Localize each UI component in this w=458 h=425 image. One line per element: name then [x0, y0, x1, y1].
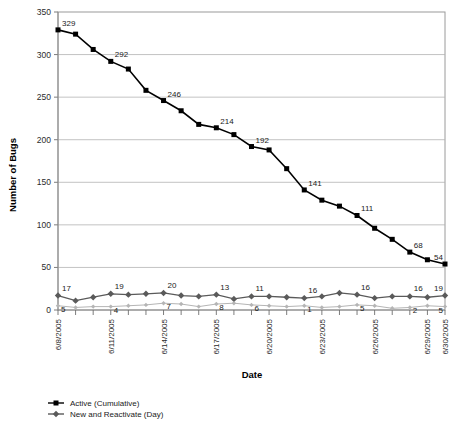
data-point-marker	[372, 226, 377, 231]
data-point-marker	[125, 291, 131, 297]
x-tick-label: 6/8/2005	[54, 318, 63, 350]
data-point-marker	[73, 32, 78, 37]
data-point-marker	[320, 305, 324, 309]
data-point-marker	[408, 305, 412, 309]
data-point-marker	[248, 293, 254, 299]
data-value-label: 11	[256, 284, 265, 293]
data-point-marker	[214, 302, 218, 306]
data-value-label: 5	[439, 306, 444, 315]
data-value-label: 192	[256, 136, 270, 145]
data-point-marker	[442, 292, 448, 298]
legend-marker-1	[54, 401, 59, 406]
data-point-marker	[178, 292, 184, 298]
data-point-marker	[301, 295, 307, 301]
y-tick-label: 0	[46, 305, 51, 315]
data-value-label: 68	[414, 241, 423, 250]
data-point-marker	[161, 301, 165, 305]
data-point-marker	[389, 293, 395, 299]
data-point-marker	[267, 304, 271, 308]
series-layer	[55, 27, 448, 310]
data-value-label: 5	[61, 305, 66, 314]
data-point-marker	[179, 108, 184, 113]
data-value-label: 329	[62, 19, 76, 28]
data-point-marker	[407, 293, 413, 299]
chart-legend: Active (Cumulative)New and Reactivate (D…	[48, 399, 164, 419]
data-point-marker	[371, 295, 377, 301]
data-point-marker	[319, 293, 325, 299]
data-point-marker	[126, 304, 130, 308]
data-point-marker	[143, 88, 148, 93]
x-tick-label: 6/29/2005	[423, 318, 432, 354]
data-point-marker	[108, 59, 113, 64]
data-point-marker	[355, 213, 360, 218]
data-value-label: 214	[220, 117, 234, 126]
x-tick-label: 6/23/2005	[318, 318, 327, 354]
bug-trend-chart: 050100150200250300350 6/8/20056/11/20056…	[0, 0, 458, 425]
data-value-label: 2	[413, 306, 418, 315]
x-tick-label: 6/17/2005	[212, 318, 221, 354]
data-point-marker	[302, 304, 306, 308]
data-value-label: 6	[255, 304, 260, 313]
data-point-marker	[267, 147, 272, 152]
data-point-marker	[73, 305, 77, 309]
data-value-label: 8	[219, 303, 224, 312]
data-point-marker	[161, 98, 166, 103]
data-value-label: 17	[62, 284, 71, 293]
y-tick-label: 250	[37, 92, 51, 102]
data-value-label: 1	[307, 305, 312, 314]
data-value-label: 16	[414, 284, 423, 293]
data-value-label: 246	[168, 90, 182, 99]
data-point-marker	[284, 166, 289, 171]
data-point-marker	[355, 303, 359, 307]
y-tick-label: 150	[37, 177, 51, 187]
data-point-marker	[56, 27, 61, 32]
data-point-marker	[91, 304, 95, 308]
data-point-marker	[372, 304, 376, 308]
data-value-label: 292	[115, 50, 129, 59]
data-point-marker	[425, 257, 430, 262]
data-value-label: 19	[434, 284, 443, 293]
data-point-marker	[55, 292, 61, 298]
data-point-marker	[144, 303, 148, 307]
data-point-marker	[109, 304, 113, 308]
data-point-marker	[196, 293, 202, 299]
data-point-marker	[197, 304, 201, 308]
data-point-marker	[407, 250, 412, 255]
data-point-marker	[284, 304, 288, 308]
data-point-marker	[319, 198, 324, 203]
data-value-label: 19	[115, 282, 124, 291]
data-point-marker	[90, 294, 96, 300]
data-point-marker	[249, 303, 253, 307]
legend-label-2: New and Reactivate (Day)	[70, 410, 164, 419]
y-tick-label: 50	[42, 262, 52, 272]
x-tick-label: 6/30/2005	[441, 318, 450, 354]
x-tick-label: 6/11/2005	[107, 318, 116, 354]
legend-marker-2	[53, 411, 59, 417]
data-point-marker	[337, 304, 341, 308]
y-axis-title: Number of Bugs	[7, 138, 18, 212]
chart-canvas: 050100150200250300350 6/8/20056/11/20056…	[0, 0, 458, 425]
data-point-marker	[213, 291, 219, 297]
x-axis-title: Date	[242, 369, 263, 380]
data-point-marker	[179, 302, 183, 306]
data-point-marker	[283, 294, 289, 300]
data-value-label: 13	[220, 283, 229, 292]
data-point-marker	[231, 132, 236, 137]
x-axis: 6/8/20056/11/20056/14/20056/17/20056/20/…	[54, 310, 450, 355]
data-point-marker	[354, 291, 360, 297]
data-value-label: 5	[360, 304, 365, 313]
data-point-marker	[91, 47, 96, 52]
y-tick-label: 350	[37, 7, 51, 17]
data-value-label: 20	[168, 281, 177, 290]
data-point-marker	[249, 144, 254, 149]
data-label-layer: 3292922462141921411116854171920131116161…	[61, 19, 444, 316]
x-tick-label: 6/26/2005	[371, 318, 380, 354]
y-tick-label: 200	[37, 135, 51, 145]
data-point-marker	[232, 301, 236, 305]
data-point-marker	[337, 204, 342, 209]
data-point-marker	[302, 187, 307, 192]
y-tick-label: 300	[37, 50, 51, 60]
data-point-marker	[108, 291, 114, 297]
data-point-marker	[424, 294, 430, 300]
data-point-marker	[160, 290, 166, 296]
